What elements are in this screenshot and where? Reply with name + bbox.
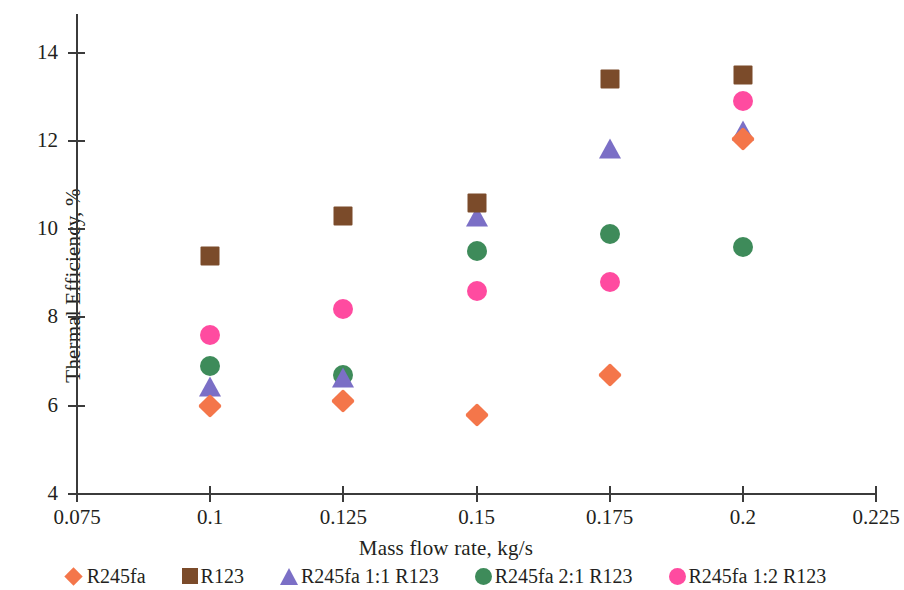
data-point-marker <box>733 65 752 84</box>
legend-label: R123 <box>201 565 246 588</box>
x-tick-label: 0.125 <box>283 507 403 528</box>
data-point-marker <box>333 299 353 319</box>
data-point-marker <box>599 138 621 158</box>
y-tick-label: 8 <box>0 306 58 327</box>
legend-triangle-marker-icon <box>280 568 298 585</box>
legend-diamond-marker-icon <box>64 567 82 585</box>
legend-item[interactable]: R245fa 1:1 R123 <box>280 565 441 588</box>
data-point-marker <box>733 237 753 257</box>
y-tick-label: 14 <box>0 42 58 63</box>
x-axis-title: Mass flow rate, kg/s <box>0 536 892 561</box>
data-point-marker <box>600 272 620 292</box>
data-point-marker <box>200 356 220 376</box>
x-tick-label: 0.175 <box>550 507 670 528</box>
data-point-marker <box>600 224 620 244</box>
data-point-marker <box>201 246 220 265</box>
data-point-marker <box>334 206 353 225</box>
legend-square-marker-icon <box>182 568 198 584</box>
legend-circle-marker-icon <box>475 568 492 585</box>
x-tick-label: 0.1 <box>150 507 270 528</box>
data-point-marker <box>200 325 220 345</box>
y-tick-label: 6 <box>0 395 58 416</box>
y-tick-label: 10 <box>0 218 58 239</box>
data-point-marker <box>467 281 487 301</box>
data-point-marker <box>467 241 487 261</box>
x-tick-label: 0.225 <box>816 507 904 528</box>
legend-item[interactable]: R123 <box>182 565 246 588</box>
y-tick-label: 4 <box>0 483 58 504</box>
legend-label: R245fa 1:1 R123 <box>301 565 441 588</box>
y-tick-label: 12 <box>0 130 58 151</box>
chart-legend: R245faR123R245fa 1:1 R123R245fa 2:1 R123… <box>0 562 892 590</box>
legend-item[interactable]: R245fa 1:2 R123 <box>669 565 829 588</box>
legend-item[interactable]: R245fa 2:1 R123 <box>475 565 635 588</box>
data-point-marker <box>733 91 753 111</box>
x-tick-label: 0.15 <box>417 507 537 528</box>
legend-label: R245fa 1:2 R123 <box>689 565 829 588</box>
legend-item[interactable]: R245fa <box>64 565 148 588</box>
legend-label: R245fa <box>87 565 148 588</box>
data-point-marker <box>332 368 354 388</box>
legend-circle-marker-icon <box>669 568 686 585</box>
x-tick-label: 0.075 <box>17 507 137 528</box>
data-point-marker <box>467 193 486 212</box>
x-tick-label: 0.2 <box>683 507 803 528</box>
legend-label: R245fa 2:1 R123 <box>495 565 635 588</box>
data-point-marker <box>600 69 619 88</box>
